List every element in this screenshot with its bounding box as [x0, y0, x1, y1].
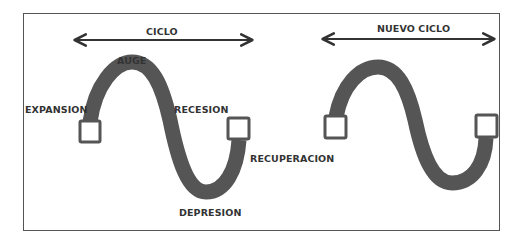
cycle-label: CICLO [146, 26, 178, 37]
economic-cycle-diagram: CICLO NUEVO CICLO AUGE EXPANSION RECESIO… [0, 0, 521, 247]
cycle-end-marker [228, 118, 249, 139]
phase-end-label: RECUPERACION [250, 153, 334, 164]
new-cycle-end-marker [476, 115, 497, 137]
new-cycle-label: NUEVO CICLO [377, 23, 450, 34]
phase-start-label: EXPANSION [25, 104, 88, 115]
new-cycle-start-marker [325, 116, 346, 138]
cycle-wave [90, 62, 239, 192]
cycle-start-marker [80, 121, 100, 142]
diagram-graphics [0, 0, 521, 247]
phase-falling-label: RECESION [174, 104, 228, 115]
phase-trough-label: DEPRESION [179, 207, 241, 218]
phase-peak-label: AUGE [117, 55, 146, 66]
new-cycle-wave [336, 67, 486, 183]
